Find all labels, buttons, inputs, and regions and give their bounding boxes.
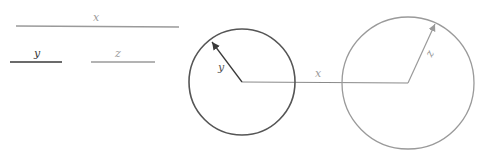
left-radius-label: y [217,61,225,74]
diagram-canvas: x y z x y z [0,0,481,155]
legend-x-label: x [93,11,100,24]
legend: x y z [10,11,179,62]
legend-z-label: z [114,47,121,60]
right-radius-label: z [422,48,437,60]
legend-x-line [16,26,179,27]
left-radius-arrow [212,42,242,82]
connector-x-line [242,82,408,83]
connector-x-label: x [315,67,322,80]
legend-y-label: y [33,47,41,60]
